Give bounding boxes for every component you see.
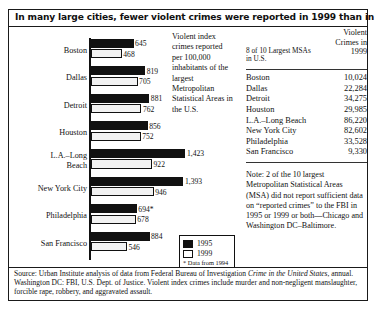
bar-value-label: 856 [149, 122, 160, 131]
legend-item-1999: 1999 [183, 249, 231, 258]
bar-category-label: Dallas [0, 73, 87, 82]
bar-1995 [91, 232, 150, 241]
chart-explanation: Violent index crimes reported per 100,00… [172, 32, 234, 115]
bar-1999 [91, 215, 136, 224]
table-row: San Francisco9,330 [246, 147, 367, 158]
bar-category-label: Philadelphia [0, 211, 87, 220]
bar-value-label: 922 [154, 160, 165, 169]
source-part1: Source: Urban Institute analysis of data… [14, 269, 248, 278]
table-cell-city: Dallas [246, 84, 267, 95]
table-header: 8 of 10 Largest MSAs in U.S. Violent Cri… [246, 27, 367, 69]
table-cell-value: 33,528 [344, 137, 367, 148]
table-cell-city: New York City [246, 126, 297, 137]
table-cell-value: 34,275 [344, 94, 367, 105]
table-rule-bottom [246, 162, 367, 163]
bar-category-label: Detroit [0, 101, 87, 110]
table-cell-value: 10,024 [344, 73, 367, 84]
legend-label-1999: 1999 [197, 249, 212, 258]
table-header-crimes: Violent Crimes in 1999 [323, 28, 367, 57]
table-cell-city: L.A.–Long Beach [246, 116, 306, 127]
bar-1999 [91, 49, 122, 58]
bar-category-label: New York City [0, 184, 87, 193]
bar-value-label: 752 [142, 132, 153, 141]
bar-1999 [91, 77, 138, 86]
bar-group: Philadelphia694*678 [9, 204, 237, 232]
bar-value-label: 881 [151, 94, 162, 103]
bar-1999 [91, 132, 141, 141]
bar-value-label: 762 [143, 105, 154, 114]
bar-category-label: Boston [0, 46, 87, 55]
bar-value-label: 946 [155, 188, 166, 197]
table-cell-city: Philadelphia [246, 137, 288, 148]
bar-value-label: 705 [139, 77, 150, 86]
legend-footnote: * Data from 1994 [183, 259, 231, 266]
legend-swatch-1995 [183, 240, 193, 248]
title-bar: In many large cities, fewer violent crim… [9, 10, 367, 27]
bar-category-label: Houston [0, 128, 87, 137]
table-cell-city: Boston [246, 73, 270, 84]
bar-1999 [91, 104, 142, 113]
bar-value-label: 819 [147, 67, 158, 76]
table-row: Philadelphia33,528 [246, 137, 367, 148]
table-cell-value: 29,985 [344, 105, 367, 116]
chart-legend: 1995 1999 * Data from 1994 [179, 235, 235, 268]
bar-group: New York City1,393946 [9, 176, 237, 204]
bar-value-label: 1,393 [185, 177, 202, 186]
bar-1995 [91, 94, 150, 103]
table-cell-city: Detroit [246, 94, 270, 105]
source-italic-title: Crime in the United States [248, 269, 328, 278]
bar-group: Houston856752 [9, 121, 237, 149]
bar-1995 [91, 39, 134, 48]
table-row: Boston10,024 [246, 73, 367, 84]
bar-1999 [91, 242, 127, 251]
bar-1995 [91, 177, 184, 186]
legend-swatch-1999 [183, 250, 193, 258]
page-title: In many large cities, fewer violent crim… [15, 12, 363, 22]
table-cell-value: 22,284 [344, 84, 367, 95]
table-cell-value: 82,602 [344, 126, 367, 137]
legend-label-1995: 1995 [197, 239, 212, 248]
bar-value-label: 694* [138, 205, 153, 214]
table-body: Boston10,024Dallas22,284Detroit34,275Hou… [246, 73, 367, 158]
figure-panel: In many large cities, fewer violent crim… [8, 9, 368, 301]
table-rule-top [246, 69, 367, 70]
bar-value-label: 1,423 [187, 149, 204, 158]
bar-value-label: 884 [151, 232, 162, 241]
data-table-panel: 8 of 10 Largest MSAs in U.S. Violent Cri… [246, 27, 367, 231]
bar-1995 [91, 121, 148, 130]
bar-category-label: San Francisco [0, 239, 87, 248]
legend-item-1995: 1995 [183, 239, 231, 248]
table-row: Houston29,985 [246, 105, 367, 116]
table-cell-value: 9,330 [348, 147, 367, 158]
bar-value-label: 468 [123, 50, 134, 59]
source-note: Source: Urban Institute analysis of data… [14, 269, 363, 297]
table-header-cities: 8 of 10 Largest MSAs in U.S. [246, 47, 312, 64]
table-note: Note: 2 of the 10 largest Metropolitan S… [246, 170, 367, 231]
bar-1995 [91, 149, 186, 158]
bar-category-label: L.A.–LongBeach [0, 151, 87, 170]
bar-1995 [91, 66, 146, 75]
bar-1995 [91, 204, 137, 213]
table-cell-city: San Francisco [246, 147, 293, 158]
table-row: Detroit34,275 [246, 94, 367, 105]
table-row: Dallas22,284 [246, 84, 367, 95]
bar-1999 [91, 187, 154, 196]
table-row: New York City82,602 [246, 126, 367, 137]
bar-group: L.A.–LongBeach1,423922 [9, 148, 237, 176]
bar-1999 [91, 159, 152, 168]
bar-value-label: 645 [135, 39, 146, 48]
table-cell-value: 86,220 [344, 116, 367, 127]
table-row: L.A.–Long Beach86,220 [246, 116, 367, 127]
table-cell-city: Houston [246, 105, 274, 116]
bar-value-label: 546 [129, 243, 140, 252]
bar-value-label: 678 [137, 215, 148, 224]
